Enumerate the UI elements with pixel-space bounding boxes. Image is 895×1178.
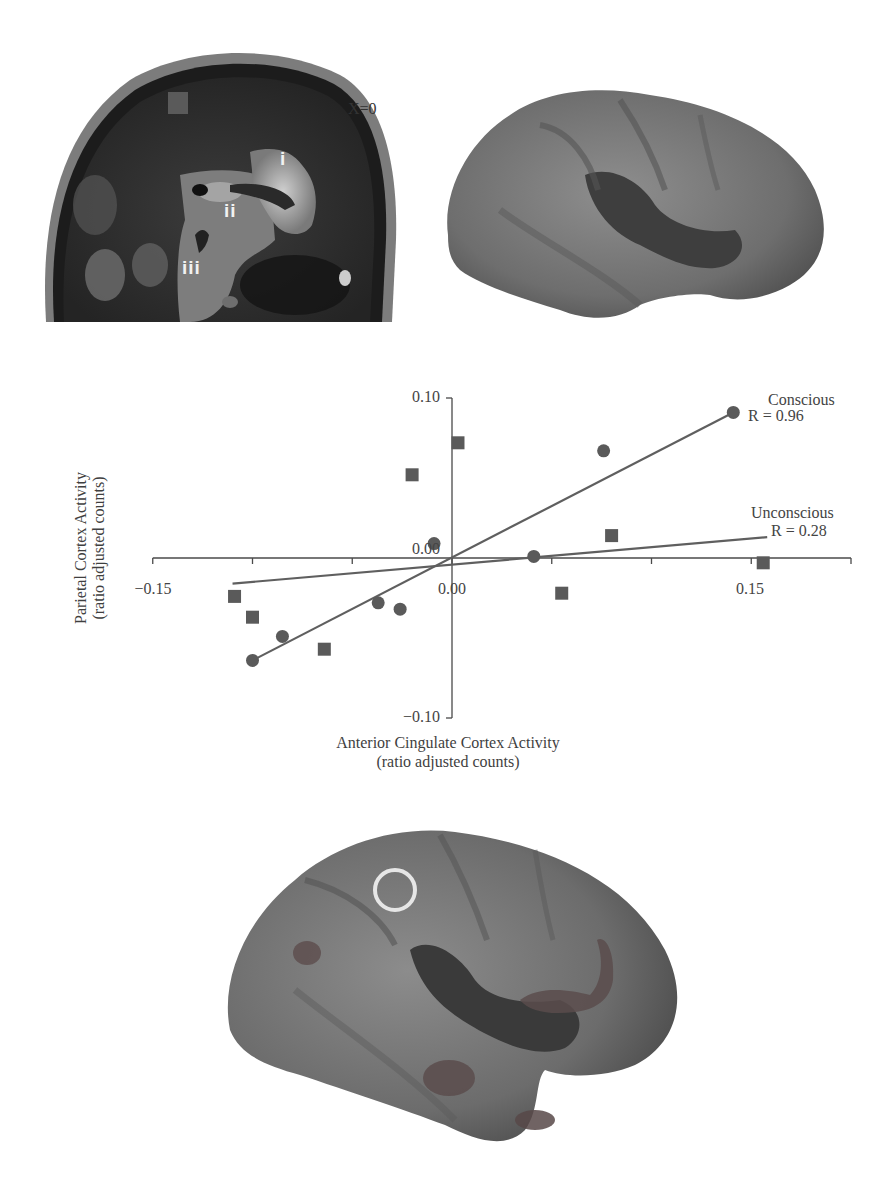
inflated-brain-bottom <box>205 820 705 1170</box>
y-tick-label-zero: 0.00 <box>412 540 440 557</box>
brain-surface-activation-image <box>205 820 705 1170</box>
mri-sagittal-image <box>40 40 400 322</box>
x-tick-label-left: −0.15 <box>134 580 171 597</box>
data-points <box>228 406 770 667</box>
series-label-conscious: Conscious <box>768 391 835 408</box>
data-point-conscious <box>394 603 407 616</box>
data-point-unconscious <box>605 529 618 542</box>
region-label-i: i <box>280 148 286 170</box>
series-r-conscious: R = 0.96 <box>748 407 804 424</box>
y-axis-subtitle: (ratio adjusted counts) <box>90 476 108 619</box>
y-axis-title: Parietal Cortex Activity <box>72 472 90 624</box>
data-point-unconscious <box>246 611 259 624</box>
series-r-unconscious: R = 0.28 <box>771 522 827 539</box>
mri-sagittal-panel: X=0 i ii iii <box>40 40 400 322</box>
regression-lines <box>233 412 768 660</box>
fit-line-conscious <box>253 412 734 660</box>
data-point-unconscious <box>555 587 568 600</box>
data-point-unconscious <box>318 643 331 656</box>
scatter-plot: 0.10 0.00 −0.10 −0.15 0.00 0.15 Consciou… <box>0 380 895 800</box>
x-axis-title: Anterior Cingulate Cortex Activity <box>336 734 560 752</box>
fit-line-unconscious <box>233 537 768 583</box>
scatter-chart: 0.10 0.00 −0.10 −0.15 0.00 0.15 Consciou… <box>0 380 895 800</box>
data-point-unconscious <box>406 468 419 481</box>
data-point-unconscious <box>757 556 770 569</box>
chart-axes <box>153 398 851 718</box>
data-point-conscious <box>527 550 540 563</box>
series-label-unconscious: Unconscious <box>751 504 834 521</box>
data-point-unconscious <box>228 590 241 603</box>
data-point-conscious <box>727 406 740 419</box>
x-tick-label-right: 0.15 <box>736 580 764 597</box>
y-tick-label-top: 0.10 <box>412 388 440 405</box>
x-axis-subtitle: (ratio adjusted counts) <box>376 753 519 771</box>
data-point-conscious <box>276 630 289 643</box>
data-point-unconscious <box>451 436 464 449</box>
inflated-brain-top <box>440 70 840 330</box>
region-label-ii: ii <box>224 200 237 222</box>
data-point-conscious <box>246 654 259 667</box>
y-tick-label-bottom: −0.10 <box>403 708 440 725</box>
x-tick-label-zero: 0.00 <box>438 580 466 597</box>
slice-coordinate-label: X=0 <box>348 100 377 118</box>
data-point-conscious <box>597 444 610 457</box>
brain-surface-image <box>440 70 840 330</box>
data-point-conscious <box>372 596 385 609</box>
region-label-iii: iii <box>182 257 201 279</box>
